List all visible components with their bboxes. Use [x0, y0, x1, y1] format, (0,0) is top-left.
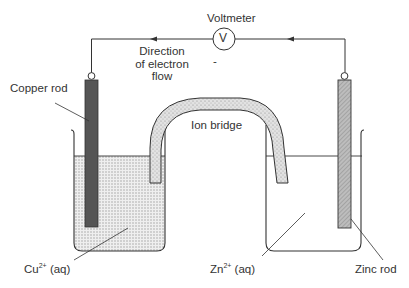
copper-terminal [88, 73, 95, 80]
electrochemical-cell-diagram: Voltmeter V Direction of electron flow -… [0, 0, 409, 288]
zinc-ion-label: Zn2+ (aq) [210, 263, 255, 276]
electron-flow-line2: of electron [126, 58, 198, 71]
electron-flow-label: Direction of electron flow [126, 45, 198, 83]
copper-ion-charge: 2+ [39, 262, 47, 269]
ion-bridge-label: Ion bridge [191, 119, 242, 132]
zinc-terminal [341, 73, 348, 80]
electron-flow-arrow-left [150, 37, 157, 42]
copper-rod [85, 80, 98, 227]
voltmeter-symbol: V [219, 32, 227, 45]
voltmeter-label: Voltmeter [207, 12, 256, 25]
copper-ion-symbol: Cu [24, 263, 39, 275]
electron-flow-arrow-right [287, 37, 294, 42]
zinc-rod [338, 80, 351, 228]
zinc-rod-label: Zinc rod [355, 263, 397, 276]
zinc-ion-state: (aq) [231, 263, 255, 275]
electron-flow-line1: Direction [126, 45, 198, 58]
diagram-canvas [0, 0, 409, 288]
ion-bridge [150, 98, 288, 183]
copper-rod-label: Copper rod [10, 82, 68, 95]
copper-ion-label: Cu2+ (aq) [24, 263, 70, 276]
minus-sign: - [213, 55, 217, 68]
electron-flow-line3: flow [126, 70, 198, 83]
zinc-ion-symbol: Zn [210, 263, 223, 275]
copper-ion-state: (aq) [47, 263, 71, 275]
